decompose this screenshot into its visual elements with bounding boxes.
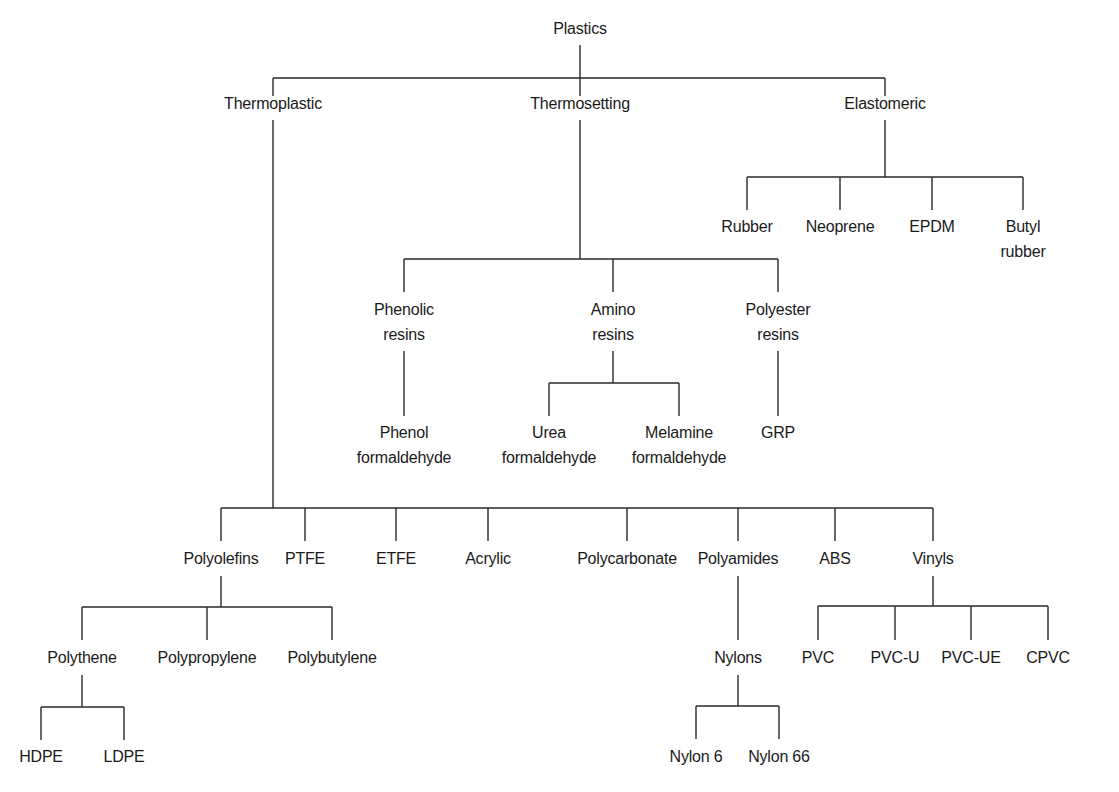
node-polyester-resins-line2: resins (746, 322, 811, 347)
node-pvc-ue: PVC-UE (941, 645, 1000, 670)
node-butyl-rubber-line2: rubber (1000, 239, 1045, 264)
node-polyester-resins-line1: Polyester (746, 297, 811, 322)
node-nylon-66: Nylon 66 (748, 744, 810, 769)
node-urea-formaldehyde-line1: Urea (502, 420, 597, 445)
node-nylon-6: Nylon 6 (670, 744, 723, 769)
node-nylons: Nylons (714, 645, 762, 670)
node-phenol-formaldehyde: Phenol formaldehyde (357, 420, 452, 470)
node-thermoplastic: Thermoplastic (224, 91, 322, 116)
node-melamine-formaldehyde-line2: formaldehyde (632, 445, 727, 470)
tree-connectors (0, 0, 1119, 792)
node-urea-formaldehyde: Urea formaldehyde (502, 420, 597, 470)
edge-elastomeric (747, 120, 1023, 210)
node-hdpe: HDPE (19, 744, 63, 769)
node-butyl-rubber-line1: Butyl (1000, 214, 1045, 239)
node-urea-formaldehyde-line2: formaldehyde (502, 445, 597, 470)
node-acrylic: Acrylic (465, 546, 511, 571)
node-melamine-formaldehyde: Melamine formaldehyde (632, 420, 727, 470)
node-plastics: Plastics (553, 16, 607, 41)
node-pvc-u: PVC-U (871, 645, 920, 670)
node-amino-resins-line1: Amino (591, 297, 635, 322)
edge-amino (549, 351, 679, 416)
node-polyolefins: Polyolefins (183, 546, 258, 571)
node-amino-resins-line2: resins (591, 322, 635, 347)
node-ptfe: PTFE (285, 546, 325, 571)
node-butyl-rubber: Butyl rubber (1000, 214, 1045, 264)
node-phenolic-resins-line1: Phenolic (374, 297, 434, 322)
node-etfe: ETFE (376, 546, 416, 571)
node-cpvc: CPVC (1026, 645, 1070, 670)
edge-polythene (41, 675, 124, 740)
edge-thermoplastic (221, 120, 933, 541)
edge-nylons (696, 675, 779, 739)
node-grp: GRP (761, 420, 795, 445)
node-phenol-formaldehyde-line1: Phenol (357, 420, 452, 445)
node-abs: ABS (819, 546, 850, 571)
node-elastomeric: Elastomeric (844, 91, 925, 116)
node-phenolic-resins-line2: resins (374, 322, 434, 347)
node-phenol-formaldehyde-line2: formaldehyde (357, 445, 452, 470)
edge-polyolefins (82, 576, 332, 640)
node-melamine-formaldehyde-line1: Melamine (632, 420, 727, 445)
node-amino-resins: Amino resins (591, 297, 635, 347)
node-ldpe: LDPE (104, 744, 145, 769)
node-polypropylene: Polypropylene (158, 645, 257, 670)
node-polyester-resins: Polyester resins (746, 297, 811, 347)
node-polycarbonate: Polycarbonate (577, 546, 677, 571)
node-polythene: Polythene (47, 645, 116, 670)
node-polybutylene: Polybutylene (287, 645, 376, 670)
edge-vinyls (818, 576, 1048, 640)
node-rubber: Rubber (721, 214, 772, 239)
node-epdm: EPDM (909, 214, 954, 239)
node-thermosetting: Thermosetting (530, 91, 630, 116)
edge-thermosetting (404, 120, 778, 292)
node-phenolic-resins: Phenolic resins (374, 297, 434, 347)
node-neoprene: Neoprene (806, 214, 875, 239)
node-vinyls: Vinyls (912, 546, 953, 571)
node-pvc: PVC (802, 645, 834, 670)
edge-plastics (273, 45, 885, 96)
node-polyamides: Polyamides (698, 546, 779, 571)
